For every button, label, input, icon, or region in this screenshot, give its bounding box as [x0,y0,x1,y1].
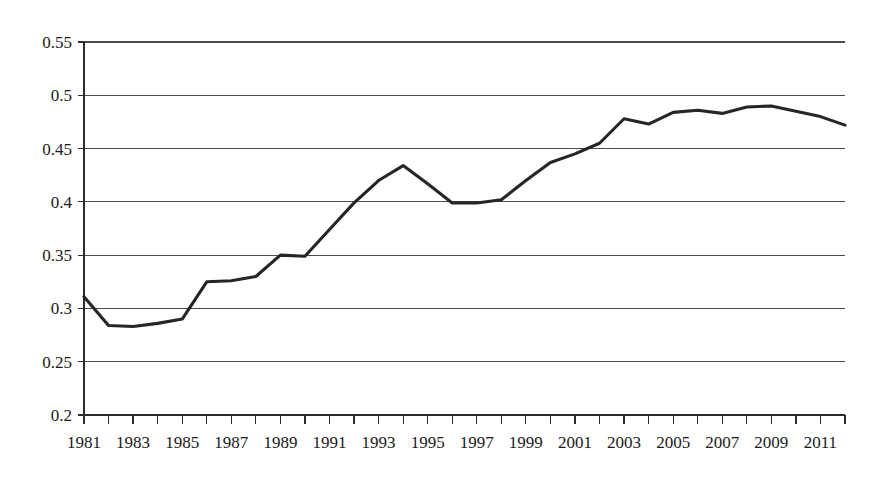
y-tick-labels: 0.20.250.30.350.40.450.50.55 [42,33,72,425]
y-tick-label-0_2: 0.2 [51,406,72,425]
x-tick-label-1997: 1997 [460,433,495,452]
line-chart: 0.20.250.30.350.40.450.50.55 19811983198… [0,0,877,483]
x-tick-label-1987: 1987 [214,433,249,452]
y-tick-label-0_35: 0.35 [42,246,72,265]
x-tick-label-1999: 1999 [509,433,543,452]
x-tick-label-1983: 1983 [116,433,150,452]
gridlines [84,42,845,415]
x-tick-label-1981: 1981 [67,433,101,452]
x-tick-label-2011: 2011 [804,433,837,452]
x-tick-label-2009: 2009 [754,433,788,452]
x-tick-label-2001: 2001 [558,433,592,452]
x-tick-labels: 1981198319851987198919911993199519971999… [67,433,837,452]
y-axis [78,42,84,415]
x-tick-label-1995: 1995 [411,433,445,452]
x-tick-label-2003: 2003 [607,433,641,452]
data-series-line [84,106,845,327]
x-tick-label-2007: 2007 [705,433,740,452]
chart-canvas: 0.20.250.30.350.40.450.50.55 19811983198… [0,0,877,483]
x-tick-label-2005: 2005 [656,433,690,452]
y-tick-label-0_25: 0.25 [42,353,72,372]
x-tick-label-1991: 1991 [312,433,346,452]
y-tick-label-0_4: 0.4 [51,193,73,212]
x-tick-label-1985: 1985 [165,433,199,452]
x-tick-label-1989: 1989 [263,433,297,452]
y-tick-label-0_5: 0.5 [51,86,72,105]
y-tick-label-0_45: 0.45 [42,140,72,159]
x-axis [84,415,845,424]
y-tick-label-0_55: 0.55 [42,33,72,52]
x-tick-label-1993: 1993 [362,433,396,452]
data-line-series-1 [84,106,845,327]
y-tick-label-0_3: 0.3 [51,299,72,318]
